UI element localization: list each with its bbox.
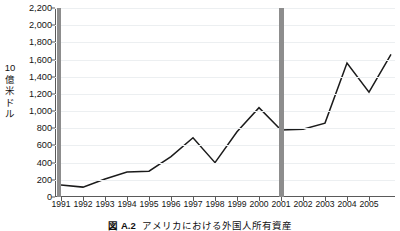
x-tick-label: 2003 — [315, 199, 334, 209]
y-tick-label: 2,000 — [18, 20, 52, 30]
y-tick-mark — [51, 111, 55, 112]
y-tick-mark — [51, 8, 55, 9]
y-tick-mark — [51, 76, 55, 77]
x-tick-label: 2002 — [293, 199, 312, 209]
x-tick-label: 1997 — [183, 199, 202, 209]
caption-number: 図 A.2 — [108, 220, 135, 231]
gridline — [55, 25, 395, 26]
x-tick-label: 2000 — [249, 199, 268, 209]
plot-area — [55, 8, 395, 197]
y-tick-mark — [51, 25, 55, 26]
y-tick-label: 1,600 — [18, 55, 52, 65]
recession-band-1991 — [57, 8, 61, 197]
y-tick-mark — [51, 59, 55, 60]
y-axis-tick-labels: 02004006008001,0001,2001,4001,6001,8002,… — [18, 0, 52, 231]
y-axis-label-char-3: ド — [2, 97, 18, 109]
y-tick-mark — [51, 145, 55, 146]
y-tick-mark — [51, 42, 55, 43]
recession-band-2001 — [279, 8, 285, 197]
gridline — [55, 42, 395, 43]
gridline — [55, 60, 395, 61]
gridline — [55, 128, 395, 129]
x-tick-label: 2001 — [271, 199, 290, 209]
x-tick-label: 1996 — [161, 199, 180, 209]
y-tick-label: 0 — [18, 192, 52, 202]
x-tick-label: 2004 — [337, 199, 356, 209]
data-series-line — [55, 8, 395, 197]
y-tick-mark — [51, 197, 55, 198]
gridline — [55, 8, 395, 9]
x-tick-label: 2005 — [359, 199, 378, 209]
gridline — [55, 77, 395, 78]
y-tick-label: 1,400 — [18, 72, 52, 82]
y-tick-label: 1,000 — [18, 106, 52, 116]
x-tick-label: 1993 — [95, 199, 114, 209]
y-tick-label: 200 — [18, 175, 52, 185]
gridline — [55, 145, 395, 146]
gridline — [55, 180, 395, 181]
y-tick-mark — [51, 162, 55, 163]
x-tick-label: 1998 — [205, 199, 224, 209]
x-tick-label: 1999 — [227, 199, 246, 209]
caption-text: アメリカにおける外国人所有資産 — [142, 220, 292, 231]
x-tick-label: 1991 — [51, 199, 70, 209]
y-tick-label: 1,800 — [18, 37, 52, 47]
y-axis-label: 10 億 米 ド ル — [2, 62, 18, 120]
y-axis-label-char-1: 億 — [2, 74, 18, 86]
y-tick-mark — [51, 179, 55, 180]
x-tick-label: 1995 — [139, 199, 158, 209]
y-tick-label: 2,200 — [18, 3, 52, 13]
x-tick-label: 1992 — [73, 199, 92, 209]
figure: 10 億 米 ド ル 02004006008001,0001,2001,4001… — [0, 0, 400, 231]
y-tick-label: 600 — [18, 140, 52, 150]
y-tick-label: 800 — [18, 123, 52, 133]
y-axis-label-char-2: 米 — [2, 85, 18, 97]
y-axis-label-char-0: 10 — [2, 62, 18, 74]
gridline — [55, 163, 395, 164]
figure-caption: 図 A.2アメリカにおける外国人所有資産 — [0, 218, 400, 231]
y-tick-mark — [51, 128, 55, 129]
y-axis-label-char-4: ル — [2, 108, 18, 120]
gridline — [55, 94, 395, 95]
gridline — [55, 111, 395, 112]
y-tick-label: 400 — [18, 158, 52, 168]
y-tick-label: 1,200 — [18, 89, 52, 99]
y-tick-mark — [51, 93, 55, 94]
x-tick-label: 1994 — [117, 199, 136, 209]
